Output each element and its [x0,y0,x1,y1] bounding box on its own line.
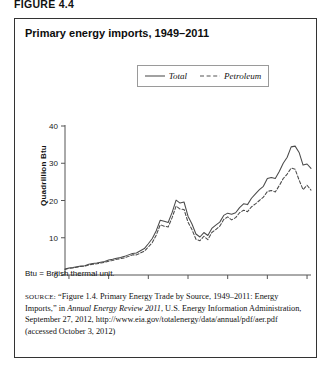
series-line-total [65,146,311,269]
source-citation: SOURCE: “Figure 1.4. Primary Energy Trad… [25,291,311,337]
y-tick-label: 10 [49,234,58,243]
plot-area: Quadrillion Btu 010203040195019601970198… [15,93,318,281]
series-line-petroleum [65,168,311,269]
btu-note: Btu = British thermal unit. [25,269,115,278]
figure-container: FIGURE 4.4 Primary energy imports, 1949–… [0,0,332,371]
source-prefix: SOURCE: [25,293,56,301]
figure-box: Primary energy imports, 1949–2011 Total … [14,18,317,358]
y-tick-label: 30 [49,159,58,168]
chart-legend: Total Petroleum [137,65,269,87]
figure-label: FIGURE 4.4 [14,0,74,10]
chart-title: Primary energy imports, 1949–2011 [25,27,209,39]
legend-item-petroleum: Petroleum [200,71,261,81]
y-tick-label: 40 [49,122,58,131]
legend-line-solid-icon [145,72,165,80]
line-chart: 0102030401950196019701980199020002010 [15,93,318,281]
source-title-italic: Annual Energy Review 2011 [67,304,161,313]
y-tick-label: 20 [49,197,58,206]
legend-label-total: Total [169,71,187,81]
legend-item-total: Total [145,71,187,81]
legend-line-dashed-icon [200,72,220,80]
legend-label-petroleum: Petroleum [224,71,261,81]
